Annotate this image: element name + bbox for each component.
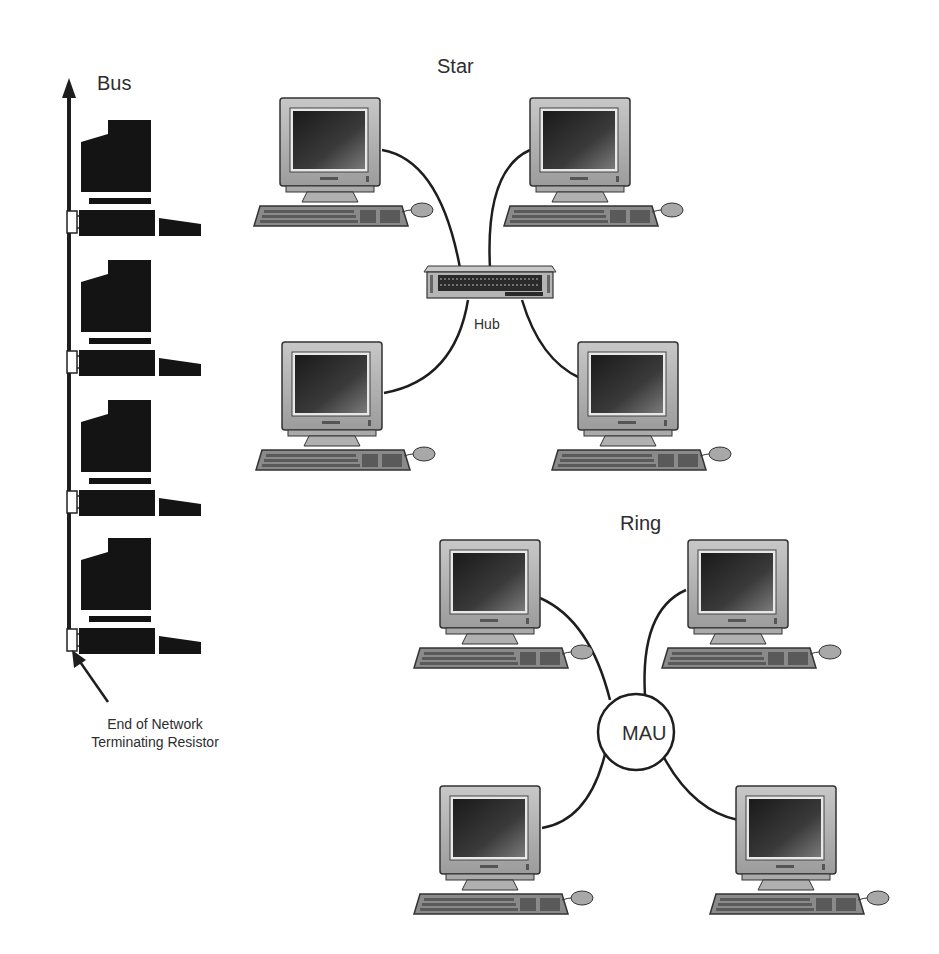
ring-workstation-2 [662,540,841,668]
hub-device [424,266,556,298]
mau-label: MAU [622,722,666,745]
bus-node-2 [67,260,201,376]
hub-label: Hub [474,316,500,332]
star-title: Star [437,55,474,78]
bus-node-4 [67,538,201,654]
star-workstation-1 [254,98,433,226]
ring-workstation-4 [710,786,889,914]
bus-title: Bus [97,72,131,95]
ring-title: Ring [620,512,661,535]
star-workstation-2 [504,98,683,226]
caption-line-1: End of Network [55,715,255,733]
bus-node-3 [67,400,201,516]
star-workstation-3 [256,342,435,470]
topology-diagram [0,0,939,954]
terminator-caption: End of Network Terminating Resistor [55,715,255,751]
ring-workstation-1 [414,540,593,668]
star-workstation-4 [552,342,731,470]
ring-workstation-3 [414,786,593,914]
bus-node-1 [67,120,201,236]
caption-line-2: Terminating Resistor [55,733,255,751]
